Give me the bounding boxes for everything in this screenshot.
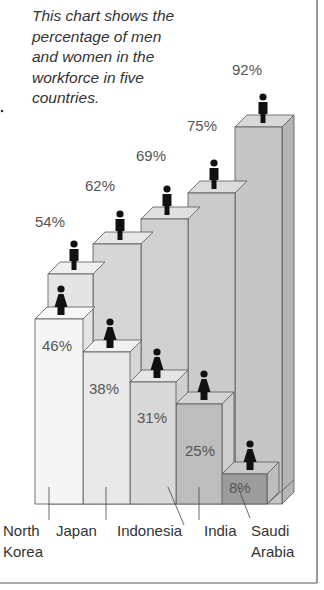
- men-pct-india: 75%: [187, 117, 217, 134]
- men-pct-indonesia: 69%: [136, 147, 166, 164]
- women-pct-india: 31%: [137, 409, 167, 426]
- men-pct-north-korea: 54%: [35, 213, 65, 230]
- women-pct-japan: 38%: [89, 380, 119, 397]
- category-label-north-korea-line2: Korea: [3, 543, 44, 560]
- men-pct-saudi-arabia: 92%: [232, 61, 262, 78]
- women-pct-india: 25%: [185, 442, 215, 459]
- women-pct-north-korea: 46%: [42, 337, 72, 354]
- category-label-saudi-arabia-line2: Arabia: [251, 543, 295, 560]
- category-label-saudi-arabia-line1: Saudi: [251, 522, 289, 539]
- category-label-japan: Japan: [56, 522, 97, 539]
- category-label-north-korea-line1: North: [3, 522, 40, 539]
- chart-frame: This chart shows the percentage of men a…: [0, 0, 324, 590]
- men-pct-japan: 62%: [85, 177, 115, 194]
- bar-men-saudi-arabia: [235, 93, 294, 504]
- category-label-india: India: [204, 522, 237, 539]
- workforce-chart: 54% 62% 69% 75% 92% 46% 38% 31% 25% 8% N…: [0, 0, 324, 590]
- women-pct-saudi-arabia: 8%: [229, 479, 251, 496]
- margin-dot: [1, 110, 4, 113]
- category-label-indonesia: Indonesia: [117, 522, 183, 539]
